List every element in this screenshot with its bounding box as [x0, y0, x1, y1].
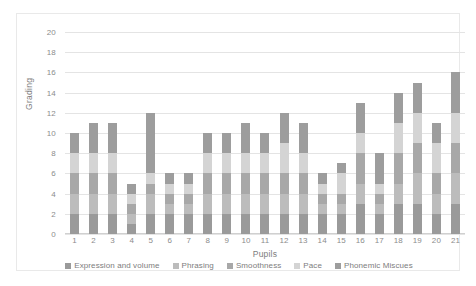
bar-segment[interactable]	[127, 204, 136, 214]
bar-segment[interactable]	[127, 184, 136, 194]
bar-segment[interactable]	[165, 204, 174, 214]
bar-slot[interactable]	[255, 32, 274, 234]
bar-segment[interactable]	[299, 214, 308, 234]
bar-segment[interactable]	[432, 173, 441, 193]
stacked-bar[interactable]	[70, 133, 79, 234]
stacked-bar[interactable]	[203, 133, 212, 234]
bar-segment[interactable]	[299, 123, 308, 153]
bar-segment[interactable]	[337, 214, 346, 234]
stacked-bar[interactable]	[356, 103, 365, 234]
bar-segment[interactable]	[146, 214, 155, 234]
bar-segment[interactable]	[70, 153, 79, 173]
bar-segment[interactable]	[184, 214, 193, 234]
stacked-bar[interactable]	[394, 93, 403, 234]
bar-segment[interactable]	[356, 184, 365, 204]
bar-segment[interactable]	[375, 194, 384, 204]
stacked-bar[interactable]	[451, 72, 460, 234]
bar-segment[interactable]	[280, 173, 289, 193]
bar-segment[interactable]	[337, 194, 346, 204]
bar-segment[interactable]	[222, 153, 231, 173]
bar-slot[interactable]	[84, 32, 103, 234]
stacked-bar[interactable]	[89, 123, 98, 234]
stacked-bar[interactable]	[318, 173, 327, 234]
legend-item[interactable]: Expression and volume	[65, 261, 159, 270]
bar-segment[interactable]	[203, 153, 212, 173]
bar-slot[interactable]	[332, 32, 351, 234]
bar-segment[interactable]	[146, 194, 155, 214]
bar-segment[interactable]	[394, 93, 403, 123]
bar-segment[interactable]	[127, 214, 136, 224]
bar-segment[interactable]	[451, 113, 460, 143]
bar-segment[interactable]	[165, 173, 174, 183]
bar-segment[interactable]	[184, 184, 193, 194]
bar-slot[interactable]	[198, 32, 217, 234]
bar-segment[interactable]	[184, 173, 193, 183]
bar-segment[interactable]	[413, 113, 422, 143]
bar-segment[interactable]	[394, 123, 403, 153]
bar-segment[interactable]	[356, 204, 365, 234]
bar-slot[interactable]	[160, 32, 179, 234]
legend-item[interactable]: Phonemic Miscues	[335, 261, 413, 270]
bar-segment[interactable]	[70, 194, 79, 214]
bar-slot[interactable]	[65, 32, 84, 234]
bar-segment[interactable]	[89, 153, 98, 173]
bar-segment[interactable]	[451, 72, 460, 112]
stacked-bar[interactable]	[299, 123, 308, 234]
bar-slot[interactable]	[427, 32, 446, 234]
bar-segment[interactable]	[318, 194, 327, 204]
bar-segment[interactable]	[394, 204, 403, 234]
bar-segment[interactable]	[241, 153, 250, 173]
bar-segment[interactable]	[375, 153, 384, 183]
bar-segment[interactable]	[203, 173, 212, 193]
bar-segment[interactable]	[70, 214, 79, 234]
bar-segment[interactable]	[146, 173, 155, 183]
bar-segment[interactable]	[451, 173, 460, 203]
bar-segment[interactable]	[451, 143, 460, 173]
bar-segment[interactable]	[356, 103, 365, 133]
legend-item[interactable]: Phrasing	[173, 261, 214, 270]
bar-slot[interactable]	[122, 32, 141, 234]
bar-segment[interactable]	[146, 113, 155, 174]
bar-segment[interactable]	[394, 153, 403, 183]
bar-slot[interactable]	[446, 32, 465, 234]
bar-segment[interactable]	[432, 143, 441, 173]
bar-segment[interactable]	[127, 194, 136, 204]
bar-segment[interactable]	[89, 173, 98, 193]
stacked-bar[interactable]	[260, 133, 269, 234]
bar-segment[interactable]	[337, 163, 346, 173]
bar-slot[interactable]	[389, 32, 408, 234]
bar-slot[interactable]	[217, 32, 236, 234]
bar-segment[interactable]	[318, 204, 327, 214]
bar-slot[interactable]	[179, 32, 198, 234]
bar-segment[interactable]	[337, 173, 346, 193]
bar-segment[interactable]	[356, 133, 365, 153]
bar-segment[interactable]	[432, 214, 441, 234]
stacked-bar[interactable]	[222, 133, 231, 234]
bar-segment[interactable]	[299, 173, 308, 193]
bar-segment[interactable]	[222, 194, 231, 214]
bar-slot[interactable]	[294, 32, 313, 234]
bar-segment[interactable]	[394, 184, 403, 204]
bar-slot[interactable]	[408, 32, 427, 234]
bar-segment[interactable]	[222, 133, 231, 153]
bar-segment[interactable]	[260, 194, 269, 214]
bar-segment[interactable]	[413, 143, 422, 173]
bar-segment[interactable]	[203, 194, 212, 214]
bar-segment[interactable]	[375, 184, 384, 194]
stacked-bar[interactable]	[375, 153, 384, 234]
bar-segment[interactable]	[280, 143, 289, 173]
bar-segment[interactable]	[165, 194, 174, 204]
legend-item[interactable]: Smoothness	[227, 261, 281, 270]
bar-segment[interactable]	[280, 214, 289, 234]
stacked-bar[interactable]	[432, 123, 441, 234]
stacked-bar[interactable]	[241, 123, 250, 234]
bar-segment[interactable]	[89, 194, 98, 214]
bar-segment[interactable]	[260, 153, 269, 173]
stacked-bar[interactable]	[337, 163, 346, 234]
bar-segment[interactable]	[260, 214, 269, 234]
bar-segment[interactable]	[318, 214, 327, 234]
bar-segment[interactable]	[299, 194, 308, 214]
bar-slot[interactable]	[351, 32, 370, 234]
bar-segment[interactable]	[89, 123, 98, 153]
bar-segment[interactable]	[356, 153, 365, 183]
